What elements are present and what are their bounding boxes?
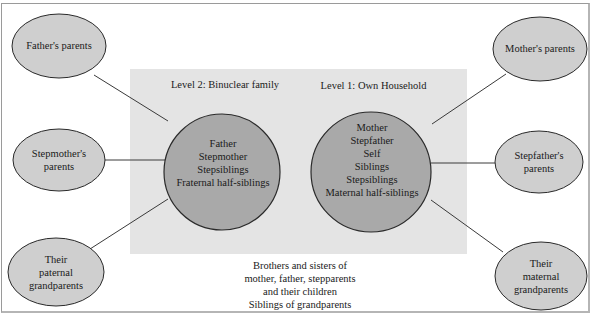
level1-title: Level 1: Own Household <box>316 79 431 92</box>
member-stepsiblings: Stepsiblings <box>168 163 278 176</box>
stepfathers-parents-line2: parents <box>494 162 584 175</box>
mothers-parents-label: Mother's parents <box>495 42 585 55</box>
stepfathers-parents-line1: Stepfather's <box>494 149 584 162</box>
level2-members: Father Stepmother Stepsiblings Fraternal… <box>168 137 278 189</box>
maternal-grandparents-line3: grandparents <box>496 283 586 296</box>
note-line4: Siblings of grandparents <box>230 298 370 311</box>
member-siblings: Siblings <box>316 160 428 173</box>
stepfathers-parents-label: Stepfather's parents <box>494 149 584 175</box>
note-line1: Brothers and sisters of <box>230 259 370 272</box>
extended-family-note: Brothers and sisters of mother, father, … <box>230 259 370 311</box>
paternal-grandparents-label: Their paternal grandparents <box>11 253 101 292</box>
member-maternal-half-siblings: Maternal half-siblings <box>316 186 428 199</box>
member-father: Father <box>168 137 278 150</box>
level2-title: Level 2: Binuclear family <box>160 78 290 91</box>
member-stepmother: Stepmother <box>168 150 278 163</box>
fathers-parents-label: Father's parents <box>14 39 104 52</box>
maternal-grandparents-line2: maternal <box>496 270 586 283</box>
member-mother: Mother <box>316 121 428 134</box>
stepmothers-parents-label: Stepmother's parents <box>14 147 104 173</box>
member-stepsiblings: Stepsiblings <box>316 173 428 186</box>
member-fraternal-half-siblings: Fraternal half-siblings <box>168 176 278 189</box>
stepmothers-parents-line2: parents <box>14 160 104 173</box>
maternal-grandparents-label: Their maternal grandparents <box>496 257 586 296</box>
member-self: Self <box>316 147 428 160</box>
paternal-grandparents-line3: grandparents <box>11 279 101 292</box>
note-line3: and their children <box>230 285 370 298</box>
paternal-grandparents-line2: paternal <box>11 266 101 279</box>
note-line2: mother, father, stepparents <box>230 272 370 285</box>
member-stepfather: Stepfather <box>316 134 428 147</box>
stepmothers-parents-line1: Stepmother's <box>14 147 104 160</box>
level1-members: Mother Stepfather Self Siblings Stepsibl… <box>316 121 428 199</box>
maternal-grandparents-line1: Their <box>496 257 586 270</box>
paternal-grandparents-line1: Their <box>11 253 101 266</box>
